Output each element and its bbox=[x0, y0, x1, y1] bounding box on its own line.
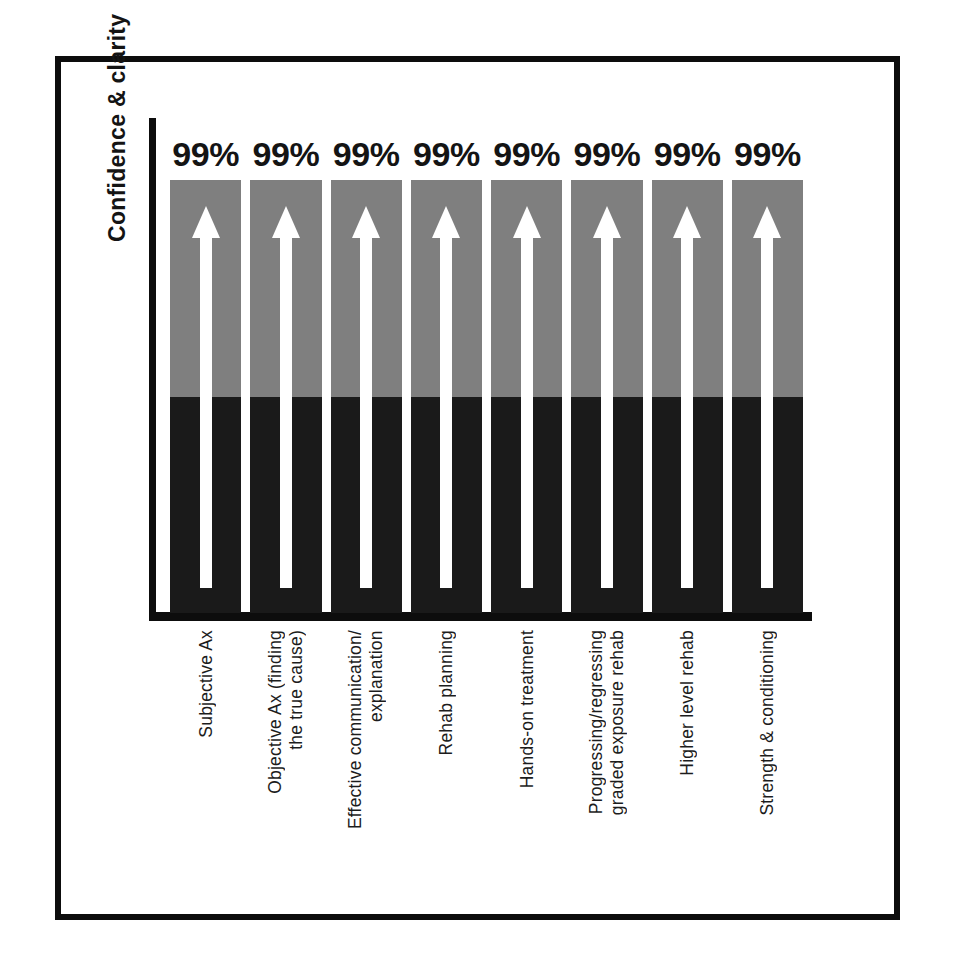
bar-upper-segment bbox=[250, 180, 321, 397]
bar-lower-segment bbox=[411, 397, 482, 614]
bar-lower-segment bbox=[571, 397, 642, 614]
bar-lower-segment bbox=[732, 397, 803, 614]
bar-4 bbox=[411, 180, 482, 613]
bar-lower-segment bbox=[170, 397, 241, 614]
bar-6 bbox=[571, 180, 642, 613]
bar-lower-segment bbox=[491, 397, 562, 614]
category-label-6: Progressing/regressinggraded exposure re… bbox=[586, 630, 628, 815]
category-label-line: the true cause) bbox=[286, 630, 307, 794]
bar-chart: Confidence & clarity 99%99%99%99%99%99%9… bbox=[0, 0, 957, 973]
category-label-2: Objective Ax (findingthe true cause) bbox=[265, 630, 307, 794]
bar-lower-segment bbox=[331, 397, 402, 614]
bar-5 bbox=[491, 180, 562, 613]
y-axis-title: Confidence & clarity bbox=[104, 242, 105, 243]
category-label-line: Higher level rehab bbox=[677, 630, 698, 776]
value-label-8: 99% bbox=[732, 133, 803, 175]
bar-body bbox=[732, 180, 803, 613]
category-label-7: Higher level rehab bbox=[677, 630, 698, 776]
bar-body bbox=[331, 180, 402, 613]
category-label-line: Hands-on treatment bbox=[517, 630, 538, 788]
value-label-2: 99% bbox=[250, 133, 321, 175]
bar-lower-segment bbox=[652, 397, 723, 614]
value-label-5: 99% bbox=[491, 133, 562, 175]
bar-7 bbox=[652, 180, 723, 613]
category-label-line: Objective Ax (finding bbox=[265, 630, 286, 794]
bar-lower-segment bbox=[250, 397, 321, 614]
bar-3 bbox=[331, 180, 402, 613]
category-label-line: explanation bbox=[366, 630, 387, 829]
bar-upper-segment bbox=[331, 180, 402, 397]
bar-upper-segment bbox=[491, 180, 562, 397]
bar-body bbox=[250, 180, 321, 613]
bar-upper-segment bbox=[571, 180, 642, 397]
y-axis-title-text: Confidence & clarity bbox=[104, 14, 131, 242]
bar-body bbox=[652, 180, 723, 613]
category-label-line: Progressing/regressing bbox=[586, 630, 607, 815]
bar-body bbox=[170, 180, 241, 613]
bar-body bbox=[571, 180, 642, 613]
category-label-1: Subjective Ax bbox=[196, 630, 217, 738]
bar-body bbox=[491, 180, 562, 613]
category-label-3: Effective communication/explanation bbox=[345, 630, 387, 829]
category-label-line: Effective communication/ bbox=[345, 630, 366, 829]
bar-upper-segment bbox=[411, 180, 482, 397]
value-label-7: 99% bbox=[652, 133, 723, 175]
category-label-line: Strength & conditioning bbox=[757, 630, 778, 816]
value-label-1: 99% bbox=[170, 133, 241, 175]
x-axis-line bbox=[149, 612, 812, 621]
bar-body bbox=[411, 180, 482, 613]
y-axis-line bbox=[149, 118, 156, 618]
category-label-line: Rehab planning bbox=[436, 630, 457, 755]
category-label-line: graded exposure rehab bbox=[607, 630, 628, 815]
category-label-5: Hands-on treatment bbox=[517, 630, 538, 788]
bar-1 bbox=[170, 180, 241, 613]
value-label-4: 99% bbox=[411, 133, 482, 175]
value-label-3: 99% bbox=[331, 133, 402, 175]
category-label-4: Rehab planning bbox=[436, 630, 457, 755]
bar-2 bbox=[250, 180, 321, 613]
slide-canvas: Confidence & clarity 99%99%99%99%99%99%9… bbox=[0, 0, 957, 973]
bar-upper-segment bbox=[652, 180, 723, 397]
category-label-line: Subjective Ax bbox=[196, 630, 217, 738]
bar-upper-segment bbox=[170, 180, 241, 397]
bar-8 bbox=[732, 180, 803, 613]
bar-upper-segment bbox=[732, 180, 803, 397]
category-label-8: Strength & conditioning bbox=[757, 630, 778, 816]
value-label-6: 99% bbox=[571, 133, 642, 175]
